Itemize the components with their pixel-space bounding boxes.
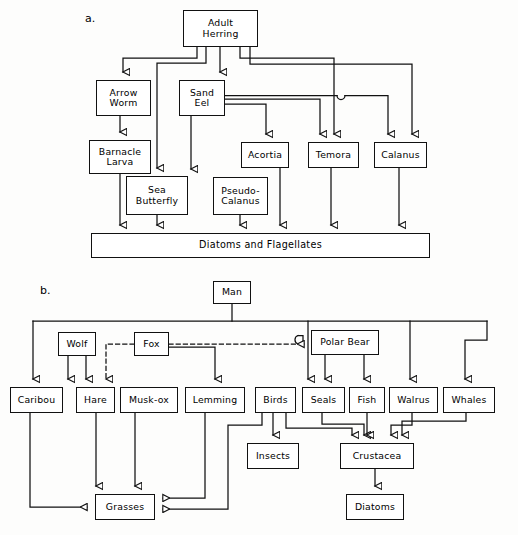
- node-grasses[interactable]: Grasses: [95, 494, 155, 520]
- node-acortia[interactable]: Acortia: [241, 142, 289, 168]
- node-birds[interactable]: Birds: [255, 387, 296, 413]
- panel-label-a: a.: [85, 12, 95, 25]
- node-fish[interactable]: Fish: [349, 387, 385, 413]
- node-temora[interactable]: Temora: [308, 142, 359, 168]
- node-lemming[interactable]: Lemming: [185, 387, 245, 413]
- node-adult-herring[interactable]: Adult Herring: [183, 10, 258, 47]
- panel-label-b: b.: [40, 284, 50, 297]
- node-man[interactable]: Man: [213, 281, 251, 304]
- node-hare[interactable]: Hare: [76, 387, 115, 413]
- node-whales[interactable]: Whales: [443, 387, 495, 413]
- node-insects[interactable]: Insects: [247, 443, 299, 469]
- node-musk-ox[interactable]: Musk-ox: [120, 387, 178, 413]
- node-sand-eel[interactable]: Sand Eel: [179, 80, 225, 116]
- node-wolf[interactable]: Wolf: [58, 332, 96, 356]
- node-arrow-worm[interactable]: Arrow Worm: [96, 80, 151, 116]
- node-crustacea[interactable]: Crustacea: [340, 443, 414, 469]
- node-diatoms[interactable]: Diatoms: [346, 494, 404, 520]
- node-diatoms-and-flagellates[interactable]: Diatoms and Flagellates: [91, 233, 430, 258]
- node-barnacle-larva[interactable]: Barnacle Larva: [89, 140, 151, 174]
- node-pseudo-calanus[interactable]: Pseudo- Calanus: [213, 177, 268, 215]
- node-fox[interactable]: Fox: [134, 332, 169, 356]
- node-caribou[interactable]: Caribou: [10, 387, 63, 413]
- node-polar-bear[interactable]: Polar Bear: [311, 330, 379, 355]
- node-walrus[interactable]: Walrus: [389, 387, 438, 413]
- node-seals[interactable]: Seals: [302, 387, 345, 413]
- node-calanus[interactable]: Calanus: [374, 142, 427, 168]
- node-sea-butterfly[interactable]: Sea Butterfly: [126, 176, 188, 215]
- figure-canvas: a. b. Adult Herring Arrow Worm Sand Eel …: [0, 0, 518, 535]
